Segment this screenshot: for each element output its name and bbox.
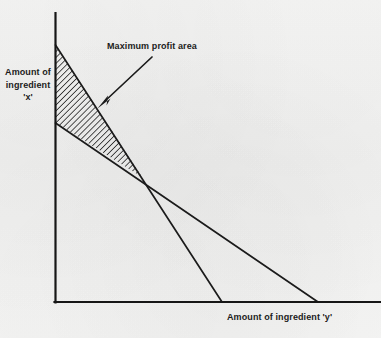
y-axis-label-line-2: ingredient	[2, 79, 54, 92]
maximum-profit-area-label: Maximum profit area	[107, 40, 197, 53]
y-axis-label-line-1: Amount of	[2, 66, 54, 79]
x-axis-label: Amount of ingredient 'y'	[227, 311, 332, 324]
y-axis-label: Amount of ingredient 'x'	[2, 66, 54, 104]
callout-arrow-shaft	[105, 57, 152, 101]
constraint-line-steep	[56, 45, 223, 302]
constraint-line-shallow	[56, 123, 319, 302]
callout-arrow	[98, 57, 153, 109]
figure-root: Amount of ingredient 'x' Amount of ingre…	[0, 0, 381, 338]
y-axis-label-line-3: 'x'	[2, 91, 54, 104]
